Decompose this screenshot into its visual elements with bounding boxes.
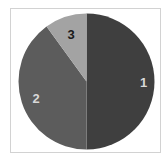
pie-chart: 1 2 3 [0, 0, 166, 163]
slice-label-3: 3 [67, 27, 74, 42]
slice-label-2: 2 [32, 91, 39, 106]
slice-label-1: 1 [140, 75, 147, 90]
pie-slices [18, 14, 154, 150]
